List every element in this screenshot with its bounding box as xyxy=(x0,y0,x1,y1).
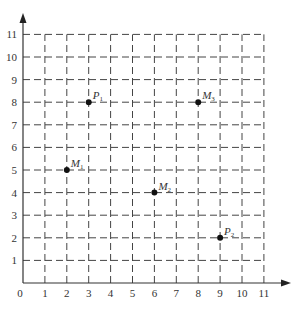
plotted-points: P1M3M1M2P2 xyxy=(64,89,235,241)
y-tick-label: 11 xyxy=(6,28,17,40)
point-label: M3 xyxy=(201,89,215,103)
dashed-grid xyxy=(23,34,264,283)
point-dot-icon xyxy=(217,235,223,241)
point-dot-icon xyxy=(151,190,157,196)
x-tick-label: 4 xyxy=(108,287,114,299)
point-dot-icon xyxy=(86,99,92,105)
y-tick-label: 5 xyxy=(12,164,18,176)
x-tick-label: 5 xyxy=(130,287,136,299)
x-tick-label: 11 xyxy=(259,287,270,299)
axes xyxy=(20,13,292,287)
x-tick-labels: 01234567891011 xyxy=(17,287,269,299)
x-tick-label: 3 xyxy=(86,287,92,299)
y-tick-label: 9 xyxy=(12,74,18,86)
x-tick-label: 6 xyxy=(152,287,158,299)
x-tick-label: 9 xyxy=(217,287,223,299)
point-label: P2 xyxy=(223,225,235,239)
x-axis-arrow-icon xyxy=(281,280,291,287)
point-label: M2 xyxy=(157,180,171,194)
y-tick-label: 3 xyxy=(12,209,18,221)
y-tick-label: 1 xyxy=(12,254,18,266)
y-tick-labels: 1234567891011 xyxy=(6,28,18,266)
y-tick-label: 4 xyxy=(12,187,18,199)
point-dot-icon xyxy=(195,99,201,105)
y-tick-label: 2 xyxy=(12,232,18,244)
y-axis-arrow-icon xyxy=(20,13,27,23)
point-label: M1 xyxy=(70,157,84,171)
coordinate-grid-diagram: 01234567891011 1234567891011 P1M3M1M2P2 xyxy=(0,0,300,309)
y-tick-label: 10 xyxy=(6,51,18,63)
y-tick-label: 6 xyxy=(12,141,18,153)
y-tick-label: 8 xyxy=(12,96,18,108)
x-tick-label: 2 xyxy=(64,287,70,299)
y-tick-label: 7 xyxy=(12,119,18,131)
x-tick-label: 1 xyxy=(42,287,48,299)
point-label: P1 xyxy=(92,89,104,103)
x-tick-label: 0 xyxy=(17,287,23,299)
x-tick-label: 8 xyxy=(195,287,201,299)
point-dot-icon xyxy=(64,167,70,173)
x-tick-label: 7 xyxy=(174,287,180,299)
x-tick-label: 10 xyxy=(237,287,249,299)
